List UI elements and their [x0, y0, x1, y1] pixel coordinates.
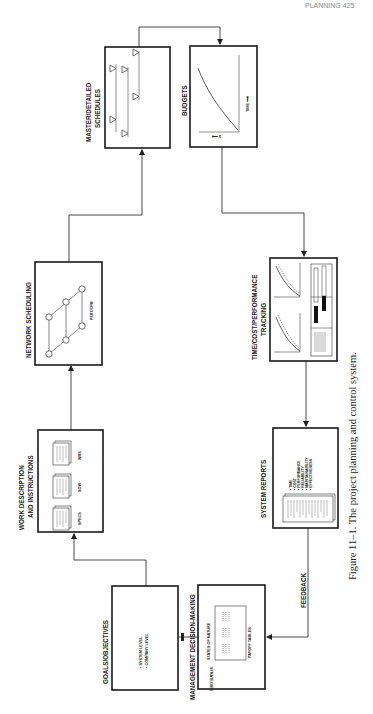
tracking-title-1: TIME/COST/PERFORMANCE: [251, 275, 258, 360]
reports-title: SYSTEM REPORTS: [260, 460, 267, 518]
node-schedules: MASTER/DETAILED SCHEDULES: [85, 47, 170, 148]
management-title: MANAGEMENT DECISION-MAKING: [189, 594, 196, 700]
work-title-1: WORK DESCRIPTION: [18, 465, 25, 530]
schedules-title-1: MASTER/DETAILED: [85, 82, 92, 142]
doc-sow: SOW: [78, 483, 82, 492]
goals-bullet-system: • SYSTEM LEVEL: [139, 636, 143, 668]
goals-bullet-company: • COMPANY LEVEL: [145, 633, 149, 668]
running-head: PLANNING 425: [305, 2, 355, 9]
management-strategies: STRATEGIES: [209, 667, 213, 691]
work-title-2: AND INSTRUCTIONS: [27, 455, 34, 518]
node-system-reports: SYSTEM REPORTS • TIME • COST • PERFORMAN…: [260, 428, 338, 528]
budgets-axis-y: ⟵ $: [212, 134, 222, 139]
edge-schedules-to-budgets: [139, 27, 220, 47]
edge-budgets-to-tracking: [222, 147, 304, 256]
tracking-title-2: TRACKING: [260, 303, 267, 336]
management-payoff-tables: PAYOFF TABLES: [248, 627, 252, 658]
network-sublabel: PERT/CPM: [90, 301, 94, 320]
doc-specs: SPECS: [78, 512, 82, 525]
node-budgets: BUDGETS TIME ⟶ ⟵ $: [181, 46, 257, 147]
schedules-title-2: SCHEDULES: [94, 89, 101, 128]
planning-control-diagram: PLANNING 425 MASTER/DETAILED SCHEDULES: [0, 0, 373, 714]
feedback-label: FEEDBACK: [300, 573, 307, 608]
report-item-effectiveness: • EFFECTIVENESS: [309, 458, 313, 490]
edge-goals-to-work: [74, 534, 146, 586]
connector-tick: [181, 633, 184, 641]
budgets-title: BUDGETS: [181, 85, 188, 116]
node-tracking: TIME/COST/PERFORMANCE TRACKING: [251, 258, 337, 361]
goals-title: GOALS/OBJECTIVES: [102, 620, 109, 684]
network-title: NETWORK SCHEDULING: [25, 282, 32, 358]
figure-caption: Figure 11–1. The project planning and co…: [347, 352, 358, 580]
node-goals: GOALS/OBJECTIVES • SYSTEM LEVEL • COMPAN…: [102, 586, 178, 690]
edge-network-to-schedules: [69, 150, 142, 262]
doc-wbs: WBS: [78, 451, 82, 460]
budgets-axis-x: TIME ⟶: [245, 96, 250, 112]
node-work-description: WORK DESCRIPTION AND INSTRUCTIONS SPECS …: [18, 430, 103, 532]
node-management: MANAGEMENT DECISION-MAKING STATES OF NAT…: [189, 585, 265, 700]
management-states-of-nature: STATES OF NATURE: [207, 622, 211, 660]
node-network-scheduling: NETWORK SCHEDULING PERT/CPM: [25, 262, 102, 365]
